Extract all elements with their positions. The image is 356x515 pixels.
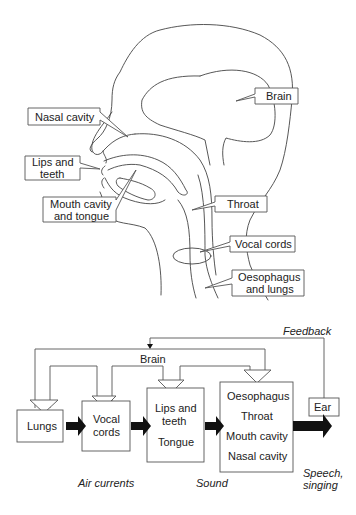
svg-text:teeth: teeth bbox=[40, 168, 64, 180]
head-illustration bbox=[90, 25, 293, 300]
svg-text:Oesophagus: Oesophagus bbox=[227, 390, 290, 402]
brain-line-lips-tract bbox=[180, 366, 250, 384]
arrow-to-tract bbox=[244, 370, 271, 383]
feedback-label: Feedback bbox=[283, 325, 332, 337]
caption-singing: singing bbox=[303, 479, 339, 491]
label-nasal-cavity: Nasal cavity bbox=[28, 108, 128, 137]
svg-text:Ear: Ear bbox=[314, 401, 331, 413]
svg-text:Tongue: Tongue bbox=[158, 436, 194, 448]
svg-text:Vocal cords: Vocal cords bbox=[235, 238, 292, 250]
svg-text:Oesophagus: Oesophagus bbox=[238, 271, 301, 283]
svg-text:Lungs: Lungs bbox=[27, 420, 57, 432]
svg-text:Vocal: Vocal bbox=[93, 413, 120, 425]
svg-text:Throat: Throat bbox=[227, 198, 259, 210]
svg-text:Throat: Throat bbox=[241, 410, 273, 422]
caption-speech: Speech, bbox=[303, 467, 343, 479]
label-brain: Brain bbox=[236, 88, 298, 104]
svg-text:Nasal cavity: Nasal cavity bbox=[228, 450, 288, 462]
svg-text:Mouth cavity: Mouth cavity bbox=[226, 430, 288, 442]
feedback-arrowhead bbox=[147, 344, 153, 349]
svg-text:Nasal cavity: Nasal cavity bbox=[35, 111, 95, 123]
arrow-output bbox=[293, 414, 332, 438]
flow-diagram: Feedback Brain Lungs Vocal cords Lips an… bbox=[17, 325, 343, 491]
label-lips-teeth: Lips and teeth bbox=[25, 156, 100, 180]
speech-production-diagram: Brain Nasal cavity Lips and teeth Mouth … bbox=[0, 0, 356, 515]
svg-text:Lips and: Lips and bbox=[32, 156, 74, 168]
svg-text:teeth: teeth bbox=[162, 415, 186, 427]
brain-label: Brain bbox=[140, 353, 166, 365]
svg-text:Brain: Brain bbox=[266, 90, 292, 102]
svg-text:and tongue: and tongue bbox=[54, 210, 109, 222]
svg-text:Mouth cavity: Mouth cavity bbox=[50, 198, 112, 210]
svg-text:Lips and: Lips and bbox=[155, 402, 197, 414]
label-vocal-cords: Vocal cords bbox=[200, 236, 295, 252]
label-oesophagus-lungs: Oesophagus and lungs bbox=[205, 270, 304, 296]
caption-sound: Sound bbox=[196, 477, 229, 489]
svg-text:cords: cords bbox=[93, 426, 120, 438]
caption-air-currents: Air currents bbox=[77, 477, 135, 489]
svg-text:and lungs: and lungs bbox=[246, 283, 294, 295]
